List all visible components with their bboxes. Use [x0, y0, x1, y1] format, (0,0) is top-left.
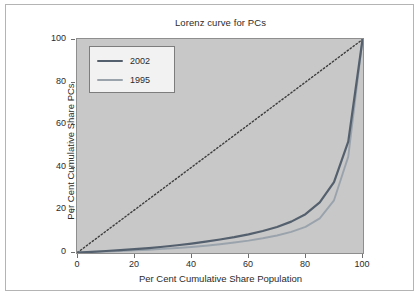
figure-frame: Lorenz curve for PCs 2002 1995 020406080… [5, 4, 414, 291]
chart-title: Lorenz curve for PCs [76, 17, 365, 28]
legend-item-2002: 2002 [97, 54, 150, 68]
y-tick-mark [71, 39, 75, 40]
legend-label-2002: 2002 [130, 57, 150, 66]
legend-swatch-1995 [97, 79, 123, 82]
x-tick-label: 20 [119, 259, 149, 269]
x-axis-title: Per Cent Cumulative Share Population [76, 273, 365, 284]
x-tick-label: 100 [347, 259, 377, 269]
legend-item-1995: 1995 [97, 73, 150, 87]
y-tick-mark [71, 252, 75, 253]
x-tick-label: 80 [290, 259, 320, 269]
x-tick-label: 60 [233, 259, 263, 269]
x-tick-mark [362, 254, 363, 258]
x-tick-label: 40 [176, 259, 206, 269]
y-axis-title: Per Cent Cumulative Share PCs [65, 57, 76, 247]
plot-area: 2002 1995 [76, 38, 364, 254]
x-tick-label: 0 [62, 259, 92, 269]
x-tick-mark [191, 254, 192, 258]
chart-legend: 2002 1995 [89, 46, 175, 93]
x-tick-mark [305, 254, 306, 258]
y-axis-title-container: Per Cent Cumulative Share PCs [28, 38, 42, 254]
legend-swatch-2002 [97, 60, 123, 63]
chart-page: Lorenz curve for PCs 2002 1995 020406080… [0, 0, 419, 296]
x-tick-mark [77, 254, 78, 258]
legend-label-1995: 1995 [130, 76, 150, 85]
x-tick-mark [134, 254, 135, 258]
x-tick-mark [248, 254, 249, 258]
